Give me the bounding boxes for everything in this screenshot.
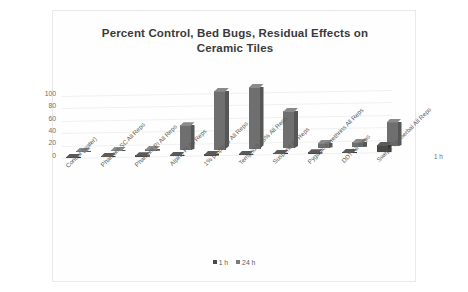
- legend-item[interactable]: 1 h: [213, 259, 228, 266]
- legend-item[interactable]: 24 h: [236, 259, 255, 266]
- chart-card: Percent Control, Bed Bugs, Residual Effe…: [0, 0, 468, 292]
- x-axis-label: Control (water): [64, 135, 98, 169]
- legend-label: 24 h: [242, 259, 255, 266]
- legend-swatch: [236, 260, 240, 264]
- x-axis-label: Suspend All Reps: [271, 126, 310, 165]
- legend-label: 1 h: [219, 259, 228, 266]
- x-axis-labels: Control (water)Phantom SC All RepsPhanto…: [0, 0, 468, 292]
- x-axis-label: Pyganic Pyrethrins All Reps: [306, 106, 365, 165]
- chart-legend: 1 h24 h: [0, 259, 468, 266]
- x-axis-label: Swepe Tite herbal All Reps: [375, 106, 432, 163]
- x-axis-label: DDT All Reps: [340, 133, 371, 164]
- z-axis-label: 1 h: [434, 153, 443, 160]
- legend-swatch: [213, 260, 217, 264]
